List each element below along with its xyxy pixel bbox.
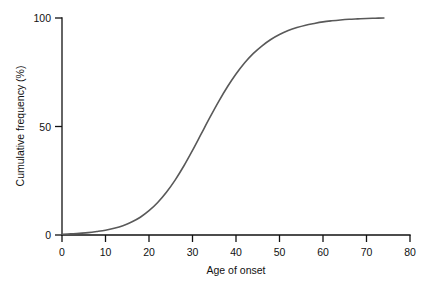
x-axis-tick-labels: 0 10 20 30 40 50 60 70 80 <box>59 246 416 258</box>
y-axis-ticks <box>55 18 62 235</box>
x-tick-label-30: 30 <box>187 246 199 258</box>
x-axis-ticks <box>62 235 410 242</box>
x-tick-label-80: 80 <box>404 246 416 258</box>
y-tick-label-50: 50 <box>39 121 51 133</box>
y-axis-title: Cumulative frequency (%) <box>14 66 26 187</box>
x-axis-title: Age of onset <box>207 264 266 276</box>
y-axis-tick-labels: 100 50 0 <box>33 12 51 241</box>
x-tick-label-10: 10 <box>100 246 112 258</box>
cumulative-frequency-curve <box>62 18 384 234</box>
x-tick-label-40: 40 <box>230 246 242 258</box>
x-tick-label-70: 70 <box>361 246 373 258</box>
chart-container: 100 50 0 0 10 20 30 40 50 60 70 80 <box>0 0 444 288</box>
x-tick-label-20: 20 <box>143 246 155 258</box>
x-tick-label-50: 50 <box>274 246 286 258</box>
x-tick-label-0: 0 <box>59 246 65 258</box>
y-tick-label-100: 100 <box>33 12 51 24</box>
cumulative-frequency-chart: 100 50 0 0 10 20 30 40 50 60 70 80 <box>0 0 444 288</box>
y-tick-label-0: 0 <box>45 229 51 241</box>
x-tick-label-60: 60 <box>317 246 329 258</box>
